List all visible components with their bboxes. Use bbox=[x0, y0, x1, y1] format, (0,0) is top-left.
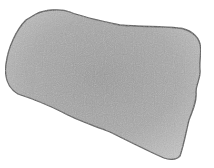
fragment-canvas bbox=[0, 0, 214, 168]
gray-fragment-shape bbox=[6, 10, 201, 159]
